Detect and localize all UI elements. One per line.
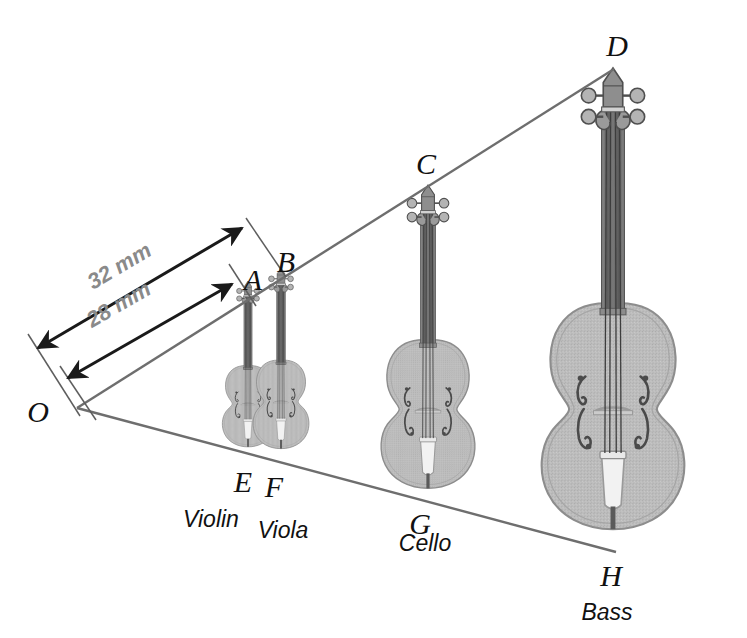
lower-ray-OH: [77, 408, 616, 552]
instrument-scaling-diagram: 32 mm 28 mm O A B C D E F G H Violin Vio…: [0, 0, 747, 638]
point-label-F: F: [264, 470, 284, 503]
instrument-cello[interactable]: [381, 185, 475, 488]
point-label-H: H: [599, 559, 624, 592]
instrument-label-viola: Viola: [258, 517, 309, 543]
point-label-E: E: [233, 465, 252, 498]
instrument-label-bass: Bass: [581, 599, 633, 625]
figure-canvas: 32 mm 28 mm O A B C D E F G H Violin Vio…: [0, 0, 747, 638]
point-label-D: D: [605, 29, 628, 62]
point-label-O: O: [27, 395, 49, 428]
point-label-B: B: [277, 245, 295, 278]
point-label-C: C: [416, 147, 437, 180]
upper-ray-OD: [77, 69, 614, 408]
instrument-label-cello: Cello: [399, 530, 452, 556]
instrument-label-violin: Violin: [183, 506, 239, 532]
instrument-bass[interactable]: [542, 68, 685, 529]
point-label-A: A: [242, 263, 263, 296]
